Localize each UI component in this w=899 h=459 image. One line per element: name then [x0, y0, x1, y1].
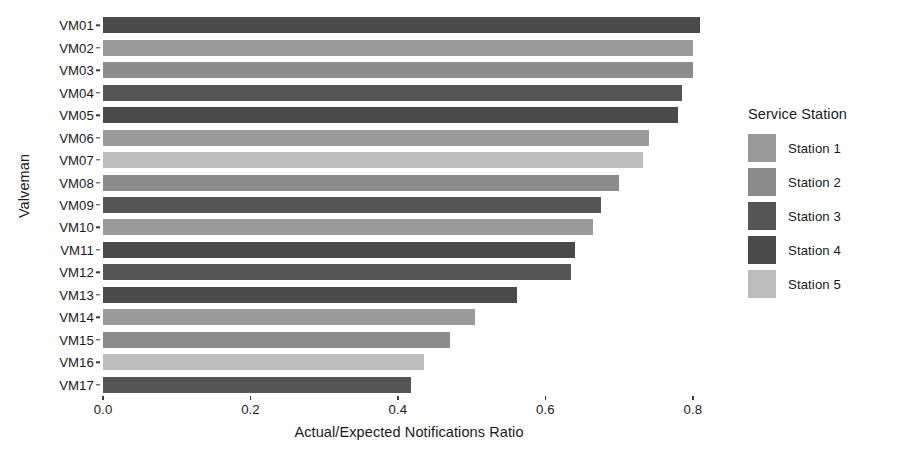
- y-tick-mark: [96, 227, 100, 228]
- y-tick-mark: [96, 362, 100, 363]
- legend-label: Station 3: [788, 209, 841, 224]
- bar: [103, 242, 575, 258]
- legend-swatch-icon: [748, 270, 776, 298]
- legend-swatch-icon: [748, 168, 776, 196]
- legend-label: Station 4: [788, 243, 841, 258]
- bar: [103, 62, 693, 78]
- y-tick-label: VM10: [59, 220, 94, 235]
- legend: Service Station Station 1Station 2Statio…: [748, 106, 893, 301]
- legend-item[interactable]: Station 1: [748, 131, 893, 165]
- legend-swatch-icon: [748, 134, 776, 162]
- x-tick-label: 0.0: [94, 402, 113, 417]
- legend-item[interactable]: Station 2: [748, 165, 893, 199]
- y-tick-mark: [96, 204, 100, 205]
- y-axis-title: Valveman: [16, 126, 32, 246]
- y-tick-label: VM16: [59, 355, 94, 370]
- x-tick-label: 0.6: [536, 402, 555, 417]
- bar: [103, 85, 682, 101]
- legend-swatch-icon: [748, 202, 776, 230]
- bar: [103, 287, 517, 303]
- y-tick-label: VM03: [59, 63, 94, 78]
- x-tick-label: 0.4: [389, 402, 408, 417]
- bar: [103, 175, 619, 191]
- x-tick-mark: [545, 396, 546, 400]
- bar-chart: Valveman VM01VM02VM03VM04VM05VM06VM07VM0…: [0, 0, 899, 459]
- y-tick-mark: [96, 294, 100, 295]
- y-tick-mark: [96, 182, 100, 183]
- y-tick-mark: [96, 339, 100, 340]
- bar: [103, 219, 593, 235]
- y-tick-mark: [96, 317, 100, 318]
- bar: [103, 17, 700, 33]
- y-tick-label: VM12: [59, 265, 94, 280]
- legend-label: Station 2: [788, 175, 841, 190]
- y-tick-label: VM07: [59, 153, 94, 168]
- y-tick-label: VM02: [59, 40, 94, 55]
- y-tick-mark: [96, 114, 100, 115]
- y-tick-mark: [96, 249, 100, 250]
- legend-label: Station 5: [788, 277, 841, 292]
- y-tick-mark: [96, 272, 100, 273]
- y-tick-mark: [96, 47, 100, 48]
- x-tick-mark: [397, 396, 398, 400]
- y-tick-label: VM08: [59, 175, 94, 190]
- x-tick-label: 0.2: [241, 402, 260, 417]
- y-tick-mark: [96, 159, 100, 160]
- legend-title: Service Station: [748, 106, 893, 122]
- y-tick-mark: [96, 25, 100, 26]
- legend-swatch-icon: [748, 236, 776, 264]
- bar: [103, 354, 424, 370]
- legend-items: Station 1Station 2Station 3Station 4Stat…: [748, 131, 893, 301]
- x-axis-title: Actual/Expected Notifications Ratio: [103, 424, 715, 440]
- x-tick-label: 0.8: [684, 402, 703, 417]
- x-tick-mark: [102, 396, 103, 400]
- legend-label: Station 1: [788, 141, 841, 156]
- bar: [103, 197, 601, 213]
- y-tick-mark: [96, 384, 100, 385]
- y-tick-label: VM14: [59, 310, 94, 325]
- plot-area: VM01VM02VM03VM04VM05VM06VM07VM08VM09VM10…: [103, 14, 715, 396]
- y-tick-label: VM04: [59, 85, 94, 100]
- bar: [103, 309, 475, 325]
- y-tick-label: VM06: [59, 130, 94, 145]
- bar: [103, 130, 649, 146]
- bar: [103, 332, 450, 348]
- legend-item[interactable]: Station 3: [748, 199, 893, 233]
- y-tick-label: VM15: [59, 332, 94, 347]
- y-tick-mark: [96, 92, 100, 93]
- x-tick-mark: [250, 396, 251, 400]
- y-tick-label: VM01: [59, 18, 94, 33]
- x-tick-mark: [692, 396, 693, 400]
- y-tick-label: VM05: [59, 108, 94, 123]
- y-tick-label: VM11: [60, 242, 94, 257]
- bar: [103, 107, 678, 123]
- y-tick-mark: [96, 137, 100, 138]
- legend-item[interactable]: Station 4: [748, 233, 893, 267]
- y-tick-label: VM09: [59, 197, 94, 212]
- bar: [103, 377, 411, 393]
- y-tick-label: VM17: [59, 377, 94, 392]
- bar: [103, 152, 643, 168]
- bar: [103, 40, 693, 56]
- bar: [103, 264, 571, 280]
- y-tick-label: VM13: [59, 287, 94, 302]
- legend-item[interactable]: Station 5: [748, 267, 893, 301]
- y-tick-mark: [96, 69, 100, 70]
